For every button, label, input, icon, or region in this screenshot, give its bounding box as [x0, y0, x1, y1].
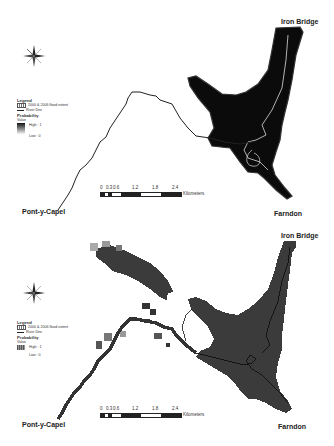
scale-tick: 0.6	[113, 406, 119, 411]
scale-tick: 1.2	[132, 185, 138, 190]
flood-extent-swatch	[17, 103, 26, 108]
scale-tick: 0.3	[106, 406, 112, 411]
place-label-iron-bridge: Iron Bridge	[281, 18, 318, 25]
place-label-farndon: Farndon	[274, 210, 302, 217]
river-corridor	[58, 319, 196, 419]
legend-low: Low : 0	[29, 134, 41, 139]
map-legend: Legend 2000 & 2006 flood extent River De…	[17, 320, 68, 358]
legend-low: Low : 0	[29, 353, 41, 358]
place-label-pont-y-capel: Pont-y-Capel	[22, 208, 65, 215]
compass-rose-icon	[22, 281, 46, 305]
place-label-farndon: Farndon	[278, 423, 306, 430]
legend-high: High : 1	[29, 123, 41, 128]
scale-tick: 1.8	[152, 185, 158, 190]
probability-ramp	[17, 123, 25, 134]
probability-ramp	[17, 345, 25, 350]
river-swatch	[17, 332, 24, 333]
scale-tick: 0.6	[113, 185, 119, 190]
scale-tick: 1.2	[132, 406, 138, 411]
scale-tick: 2.4	[172, 406, 178, 411]
scale-tick: 1.8	[152, 406, 158, 411]
scale-tick: 2.4	[172, 185, 178, 190]
map-panel-bottom: Iron Bridge Farndon Pont-y-Capel Legend …	[0, 223, 334, 446]
scale-tick: 0.3	[106, 185, 112, 190]
scale-unit: Kilometers	[183, 412, 204, 417]
place-label-pont-y-capel: Pont-y-Capel	[22, 421, 65, 428]
scale-tick: 0	[100, 406, 103, 411]
place-label-iron-bridge: Iron Bridge	[281, 232, 318, 239]
compass-rose-icon	[22, 44, 46, 68]
river-swatch	[17, 110, 24, 111]
flood-extent-swatch	[17, 325, 26, 330]
flood-area	[188, 241, 296, 413]
scale-unit: Kilometers	[183, 191, 204, 196]
map-panel-top: Iron Bridge Farndon Pont-y-Capel Legend …	[0, 0, 334, 223]
map-legend: Legend 2000 & 2006 flood extent River De…	[17, 98, 68, 139]
legend-high: High : 1	[29, 345, 41, 350]
scale-tick: 0	[100, 185, 103, 190]
flood-area	[188, 27, 303, 199]
